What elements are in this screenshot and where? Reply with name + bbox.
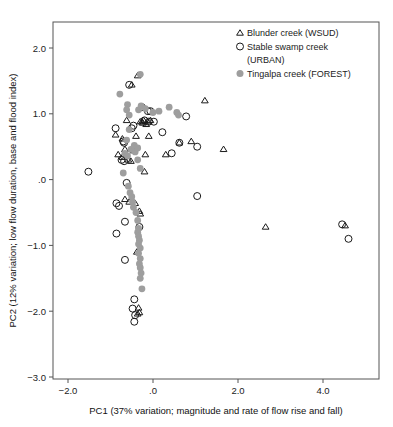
data-point [137,275,144,282]
data-point [156,108,163,115]
y-tick-label: −1.0 [27,240,46,251]
legend-label: Tingalpa creek (FOREST) [247,69,351,79]
data-point [142,105,149,112]
y-tick-label: .0 [38,174,46,185]
data-point [133,209,140,216]
plot-background [0,0,393,427]
legend-label-continued: (URBAN) [247,55,285,65]
data-point [126,112,133,119]
y-axis-title: PC2 (12% variation; low flow duration, b… [7,73,18,327]
x-tick-label: −2.0 [59,385,78,396]
data-point [120,170,127,177]
y-tick-label: 1.0 [33,108,46,119]
data-point [126,126,133,133]
y-tick-label: −3.0 [27,372,46,383]
data-point [166,104,173,111]
x-axis-title: PC1 (37% variation; magnitude and rate o… [89,405,342,416]
data-point [137,165,144,172]
y-tick-label: −2.0 [27,306,46,317]
data-point [137,71,144,78]
data-point [134,145,141,152]
data-point [134,217,141,224]
x-tick-label: 2.0 [231,385,244,396]
plot-canvas: 2.01.0.0−1.0−2.0−3.0−2.0.02.04.0PC1 (37%… [0,0,393,427]
data-point [125,183,132,190]
data-point [150,109,157,116]
legend-label: Stable swamp creek [247,42,329,52]
data-point [175,112,182,119]
data-point [139,285,146,292]
y-tick-label: 2.0 [33,43,46,54]
legend-label: Blunder creek (WSUD) [247,28,339,38]
data-point [134,156,141,163]
data-point [116,91,123,98]
data-point [123,137,130,144]
data-point [124,153,131,160]
x-tick-label: .0 [149,385,157,396]
x-tick-label: 4.0 [316,385,329,396]
scatter-plot-figure: 2.01.0.0−1.0−2.0−3.0−2.0.02.04.0PC1 (37%… [0,0,393,427]
legend-marker-filled-circle [237,70,244,77]
